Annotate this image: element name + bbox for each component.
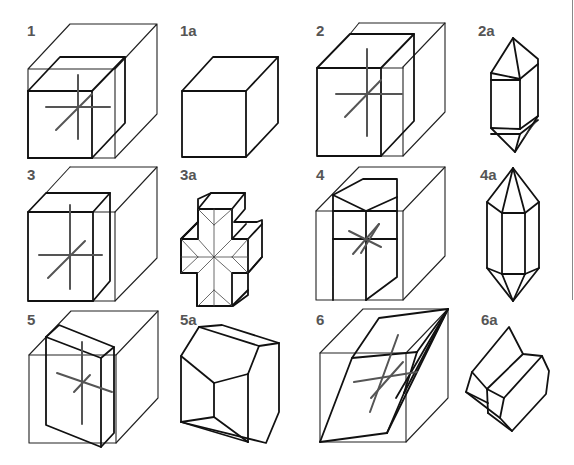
fig-5a-monoclinic-crystal (181, 325, 279, 443)
fig-3-cube-construction (28, 167, 157, 301)
fig-4-cube-construction (316, 167, 445, 300)
fig-6-axes (354, 335, 417, 412)
fig-2a-dipyramidal-prism (491, 38, 538, 152)
fig-2-cube-construction (317, 23, 445, 156)
fig-2-axes (336, 49, 402, 136)
fig-1a-cube (182, 57, 278, 157)
fig-3a-cross-twin (181, 193, 262, 306)
fig-5-axes (57, 342, 112, 424)
fig-5-cube-construction (29, 311, 158, 447)
fig-6-cube-construction (320, 309, 448, 442)
fig-1-cube-construction (28, 24, 157, 158)
fig-6a-triclinic-crystal (466, 327, 549, 431)
diagram-drawing (0, 0, 574, 465)
fig-4a-hexagonal-dipyramid (487, 168, 539, 301)
crystal-systems-diagram: 1 1a 2 2a 3 3a 4 4a 5 5a 6 6a (0, 0, 574, 465)
fig-3a-star-facets (181, 209, 248, 306)
fig-1-axes (46, 75, 110, 139)
